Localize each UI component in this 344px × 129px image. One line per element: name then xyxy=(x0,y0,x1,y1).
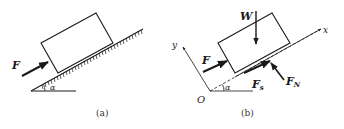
force-f-label: F xyxy=(11,59,21,72)
force-f-arrow xyxy=(22,62,48,76)
normal-force-arrow xyxy=(271,63,284,80)
angle-arc xyxy=(223,85,225,92)
caption-a: (a) xyxy=(96,108,108,118)
y-axis-label: y xyxy=(171,40,178,50)
diagram-canvas: F α (a) x y α O W F Fs FN (b) xyxy=(0,0,344,129)
weight-label: W xyxy=(240,10,254,23)
angle-label: α xyxy=(50,83,56,92)
x-axis-label: x xyxy=(323,25,328,35)
angle-label: α xyxy=(225,83,231,92)
caption-b: (b) xyxy=(241,108,254,118)
friction-label: Fs xyxy=(251,78,264,92)
block xyxy=(41,13,113,73)
origin-label: O xyxy=(197,94,205,105)
angle-arc xyxy=(44,85,46,92)
force-f-label: F xyxy=(201,54,211,67)
block xyxy=(218,13,290,73)
panel-b: x y α O W F Fs FN (b) xyxy=(171,10,328,118)
normal-force-label: FN xyxy=(285,75,301,89)
panel-a: F α (a) xyxy=(11,13,143,118)
